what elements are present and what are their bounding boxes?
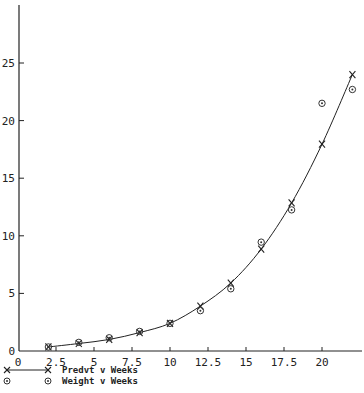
circle-marker-icon — [167, 320, 173, 326]
circle-marker-icon — [319, 100, 325, 106]
plot-area — [45, 71, 355, 350]
y-tick-label: 15 — [2, 172, 15, 185]
x-tick-label: 15 — [239, 356, 252, 369]
y-tick-label: 25 — [2, 57, 15, 70]
circle-marker-icon — [136, 328, 142, 334]
predicted-markers — [45, 71, 355, 350]
weight-markers — [45, 86, 355, 350]
circle-marker-icon — [197, 307, 203, 313]
axes — [19, 5, 362, 351]
legend-item-weight: Weight v Weeks — [4, 376, 138, 386]
x-tick-label: 20 — [315, 356, 328, 369]
circle-marker-icon — [258, 239, 264, 245]
x-marker-icon — [258, 246, 264, 253]
x-tick-label: 0 — [15, 356, 22, 369]
y-tick-label: 20 — [2, 115, 15, 128]
circle-marker-icon — [45, 378, 51, 384]
circle-marker-icon — [76, 339, 82, 345]
x-tick-label: 17.5 — [271, 356, 298, 369]
y-tick-label: 10 — [2, 230, 15, 243]
legend: Predvt v Weeks Weight v Weeks — [4, 365, 138, 386]
y-ticks: 0510152025 — [2, 57, 24, 358]
legend-label-predicted: Predvt v Weeks — [62, 365, 138, 375]
x-tick-label: 12.5 — [195, 356, 222, 369]
circle-marker-icon — [228, 286, 234, 292]
chart-canvas: 02.557.51012.51517.520 0510152025 Predvt… — [0, 0, 364, 393]
x-marker-icon — [289, 199, 295, 206]
circle-marker-icon — [288, 207, 294, 213]
y-tick-label: 0 — [8, 345, 15, 358]
x-tick-label: 10 — [163, 356, 176, 369]
legend-item-predicted: Predvt v Weeks — [4, 365, 138, 375]
circle-marker-icon — [4, 378, 10, 384]
y-tick-label: 5 — [8, 287, 15, 300]
circle-marker-icon — [349, 86, 355, 92]
x-marker-icon — [349, 71, 355, 78]
legend-label-weight: Weight v Weeks — [62, 376, 138, 386]
x-marker-icon — [319, 141, 325, 148]
